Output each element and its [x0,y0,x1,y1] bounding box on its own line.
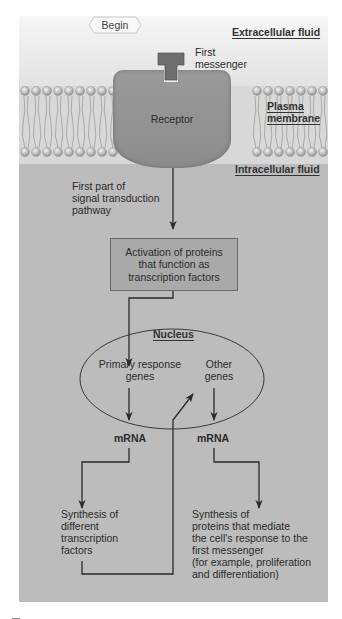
synthesis-transcription-factors-label: Synthesis of different transcription fac… [61,508,118,556]
intracellular-fluid-label: Intracellular fluid [235,163,320,175]
nucleus-label: Nucleus [153,328,194,340]
mrna-left-label: mRNA [114,432,146,444]
other-genes-label: Other genes [199,358,239,382]
synthesis-left-line-4: factors [61,544,118,556]
other-genes-line-1: Other [199,358,239,370]
first-messenger-label: First messenger [195,46,247,70]
activation-line-1: Activation of proteins [125,246,222,259]
synthesis-response-proteins-label: Synthesis of proteins that mediate the c… [192,508,311,580]
synthesis-right-line-4: first messenger [192,544,311,556]
synthesis-right-line-3: the cell's response to the [192,532,311,544]
pathway-line-2: signal transduction [72,192,160,204]
activation-line-3: transcription factors [125,271,222,284]
activation-box: Activation of proteins that function as … [110,238,238,291]
mrna-right-label: mRNA [197,432,229,444]
synthesis-right-line-5: (for example, proliferation [192,556,311,568]
signal-transduction-label: First part of signal transduction pathwa… [72,180,160,216]
pathway-line-3: pathway [72,204,160,216]
extracellular-fluid-label: Extracellular fluid [232,26,320,38]
activation-line-2: that function as [125,258,222,271]
synthesis-right-line-2: proteins that mediate [192,520,311,532]
synthesis-left-line-2: different [61,520,118,532]
synthesis-right-line-6: and differentiation) [192,568,311,580]
first-messenger-line-2: messenger [195,58,247,70]
plasma-membrane-label: Plasma membrane [267,100,320,124]
pathway-line-1: First part of [72,180,160,192]
synthesis-right-line-1: Synthesis of [192,508,311,520]
plasma-membrane-line-1: Plasma [267,100,320,112]
primary-genes-line-2: genes [95,370,185,382]
synthesis-left-line-3: transcription [61,532,118,544]
plasma-membrane-line-2: membrane [267,112,320,124]
first-messenger-line-1: First [195,46,247,58]
primary-genes-line-1: Primary response [95,358,185,370]
synthesis-left-line-1: Synthesis of [61,508,118,520]
primary-response-genes-label: Primary response genes [95,358,185,382]
other-genes-line-2: genes [199,370,239,382]
